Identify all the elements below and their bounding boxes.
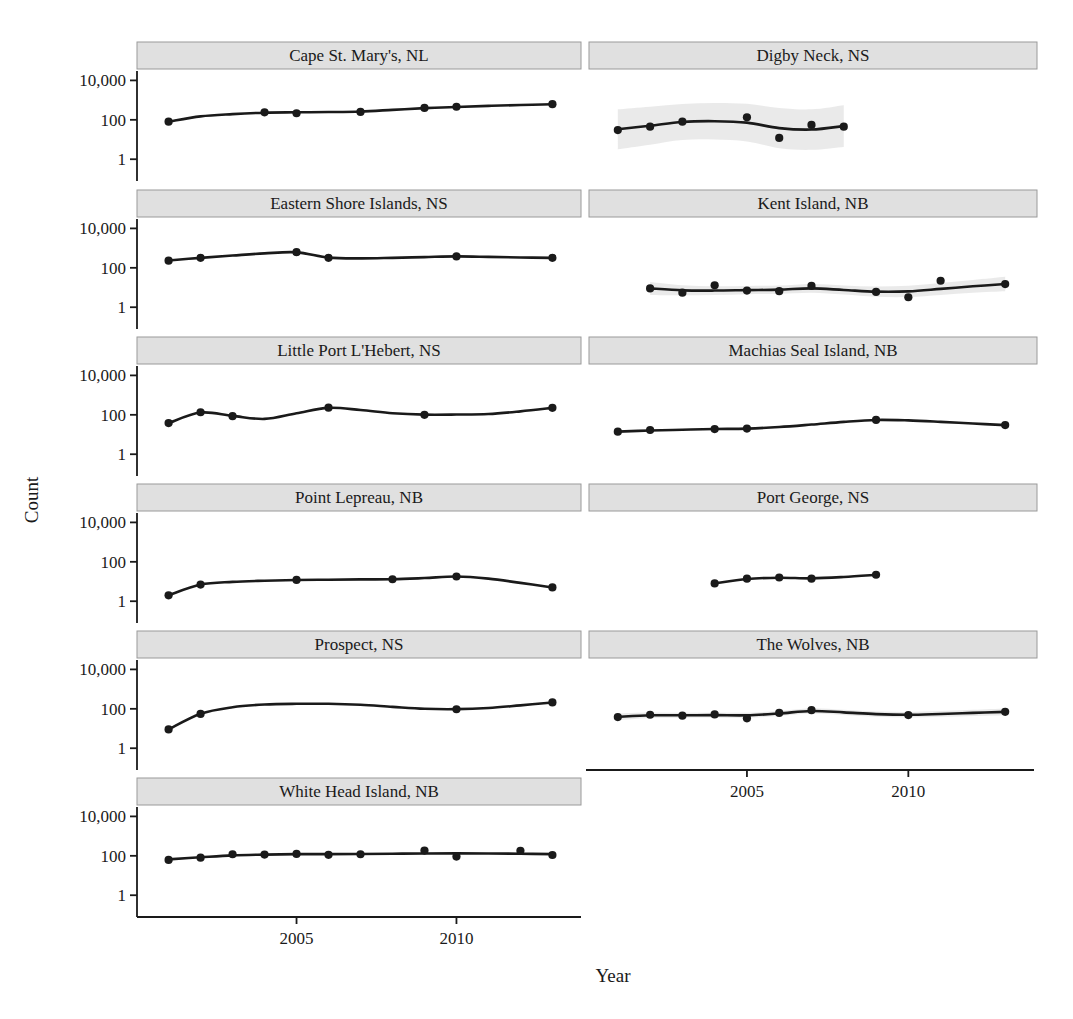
- data-point: [840, 123, 848, 131]
- y-axis-tick-label: 10,000: [79, 219, 126, 238]
- data-point: [775, 709, 783, 717]
- panel-strip-label: Point Lepreau, NB: [295, 488, 423, 507]
- data-point: [196, 254, 204, 262]
- data-point: [388, 575, 396, 583]
- data-point: [292, 850, 300, 858]
- y-axis-tick-label: 100: [101, 847, 127, 866]
- panel-strip-label: Prospect, NS: [315, 635, 404, 654]
- panel-strip-label: Eastern Shore Islands, NS: [270, 194, 448, 213]
- data-point: [646, 284, 654, 292]
- y-axis-title: Count: [21, 476, 42, 523]
- y-axis-tick-label: 100: [101, 553, 127, 572]
- data-point: [807, 575, 815, 583]
- data-point: [775, 573, 783, 581]
- data-point: [356, 108, 364, 116]
- y-axis-tick-label: 100: [101, 406, 127, 425]
- y-axis-tick-label: 10,000: [79, 660, 126, 679]
- data-point: [743, 286, 751, 294]
- data-point: [164, 725, 172, 733]
- data-point: [904, 711, 912, 719]
- data-point: [452, 852, 460, 860]
- y-axis-tick-label: 10,000: [79, 366, 126, 385]
- data-point: [807, 282, 815, 290]
- data-point: [196, 580, 204, 588]
- y-axis-tick-label: 1: [118, 150, 127, 169]
- data-point: [292, 576, 300, 584]
- panel-strip-label: Port George, NS: [757, 488, 870, 507]
- x-axis-tick-label: 2010: [439, 929, 473, 948]
- data-point: [614, 428, 622, 436]
- data-point: [872, 288, 880, 296]
- data-point: [548, 698, 556, 706]
- panel-strip-label: Digby Neck, NS: [757, 46, 870, 65]
- data-point: [807, 706, 815, 714]
- data-point: [324, 851, 332, 859]
- data-point: [164, 856, 172, 864]
- data-point: [452, 252, 460, 260]
- y-axis-tick-label: 100: [101, 111, 127, 130]
- y-axis-tick-label: 1: [118, 886, 127, 905]
- y-axis-tick-label: 10,000: [79, 71, 126, 90]
- data-point: [420, 411, 428, 419]
- data-point: [678, 712, 686, 720]
- data-point: [516, 847, 524, 855]
- data-point: [775, 287, 783, 295]
- data-point: [743, 113, 751, 121]
- data-point: [324, 254, 332, 262]
- data-point: [743, 575, 751, 583]
- data-point: [743, 714, 751, 722]
- data-point: [548, 583, 556, 591]
- figure-root: Cape St. Mary's, NLDigby Neck, NSEastern…: [0, 0, 1073, 1019]
- y-axis-tick-label: 1: [118, 298, 127, 317]
- y-axis-tick-label: 1: [118, 445, 127, 464]
- data-point: [452, 103, 460, 111]
- data-point: [420, 846, 428, 854]
- data-point: [196, 408, 204, 416]
- data-point: [743, 424, 751, 432]
- data-point: [646, 711, 654, 719]
- y-axis-tick-label: 1: [118, 592, 127, 611]
- panel-strip-label: The Wolves, NB: [756, 635, 869, 654]
- x-axis-tick-label: 2010: [891, 782, 925, 801]
- panel-strip-label: White Head Island, NB: [279, 782, 439, 801]
- panel-strip-label: Machias Seal Island, NB: [728, 341, 897, 360]
- data-point: [614, 713, 622, 721]
- data-point: [452, 705, 460, 713]
- data-point: [164, 257, 172, 265]
- data-point: [614, 126, 622, 134]
- data-point: [452, 572, 460, 580]
- data-point: [196, 854, 204, 862]
- data-point: [646, 123, 654, 131]
- data-point: [164, 118, 172, 126]
- data-point: [678, 118, 686, 126]
- data-point: [678, 289, 686, 297]
- data-point: [196, 710, 204, 718]
- data-point: [292, 109, 300, 117]
- data-point: [420, 104, 428, 112]
- data-point: [548, 851, 556, 859]
- data-point: [937, 277, 945, 285]
- data-point: [1001, 421, 1009, 429]
- data-point: [807, 121, 815, 129]
- data-point: [548, 100, 556, 108]
- data-point: [872, 416, 880, 424]
- data-point: [1001, 708, 1009, 716]
- panel-strip-label: Kent Island, NB: [758, 194, 869, 213]
- data-point: [260, 108, 268, 116]
- data-point: [548, 404, 556, 412]
- data-point: [711, 579, 719, 587]
- panel-strip-label: Cape St. Mary's, NL: [289, 46, 429, 65]
- data-point: [228, 412, 236, 420]
- data-point: [1001, 280, 1009, 288]
- y-axis-tick-label: 10,000: [79, 807, 126, 826]
- x-axis-tick-label: 2005: [730, 782, 764, 801]
- data-point: [548, 254, 556, 262]
- data-point: [164, 419, 172, 427]
- facet-chart-svg: Cape St. Mary's, NLDigby Neck, NSEastern…: [0, 0, 1073, 1019]
- data-point: [711, 281, 719, 289]
- data-point: [164, 591, 172, 599]
- y-axis-tick-label: 1: [118, 739, 127, 758]
- data-point: [228, 850, 236, 858]
- data-point: [872, 571, 880, 579]
- y-axis-tick-label: 10,000: [79, 513, 126, 532]
